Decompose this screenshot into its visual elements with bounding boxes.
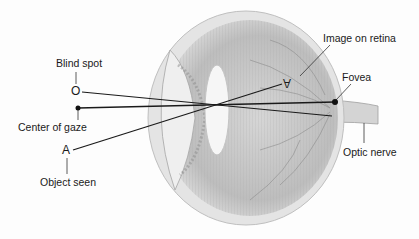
- blind-spot-label: Blind spot: [56, 58, 102, 69]
- object-marker: A: [62, 144, 70, 156]
- object-seen-label: Object seen: [40, 177, 96, 188]
- center-of-gaze-label: Center of gaze: [18, 122, 87, 133]
- lens: [205, 65, 229, 155]
- fovea-dot: [332, 99, 338, 105]
- image-on-retina-label: Image on retina: [323, 33, 396, 44]
- center-gaze-dot: [76, 106, 81, 111]
- retina-image-marker: A: [283, 77, 291, 89]
- optic-nerve-label: Optic nerve: [343, 147, 397, 158]
- fovea-label: Fovea: [342, 72, 371, 83]
- eye-diagram: Blind spot O Center of gaze A Object see…: [0, 0, 419, 239]
- blind-spot-marker: O: [71, 85, 80, 97]
